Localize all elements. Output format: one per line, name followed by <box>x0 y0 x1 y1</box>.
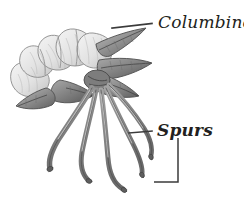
label-columbine: Columbine <box>158 14 244 31</box>
botanical-illustration-figure: Columbine Spurs <box>0 0 244 212</box>
spurs-bracket <box>154 138 178 182</box>
label-spurs: Spurs <box>157 122 213 139</box>
leader-line-columbine <box>112 24 152 29</box>
